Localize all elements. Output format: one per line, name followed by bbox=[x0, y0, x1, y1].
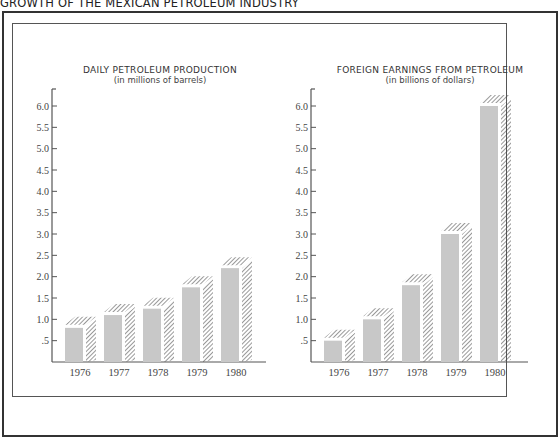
bar-1976 bbox=[324, 330, 355, 362]
y-tick-label: 5.0 bbox=[296, 143, 309, 154]
right-bar-chart: .51.01.52.02.53.03.54.04.55.05.56.019761… bbox=[0, 0, 560, 439]
y-tick-label: 4.5 bbox=[296, 165, 309, 176]
x-tick-label: 1979 bbox=[446, 367, 467, 378]
y-tick-label: .5 bbox=[301, 335, 309, 346]
y-tick-label: 2.0 bbox=[296, 271, 309, 282]
y-tick-label: 2.5 bbox=[296, 250, 309, 261]
x-tick-label: 1978 bbox=[407, 367, 428, 378]
y-tick-label: 5.5 bbox=[296, 122, 309, 133]
bar-1978 bbox=[402, 274, 433, 362]
y-tick-label: 4.0 bbox=[296, 186, 309, 197]
bar-1977 bbox=[363, 308, 394, 362]
y-tick-label: 3.0 bbox=[296, 229, 309, 240]
bar-1980 bbox=[480, 95, 511, 362]
x-tick-label: 1980 bbox=[485, 367, 506, 378]
y-tick-label: 6.0 bbox=[296, 101, 309, 112]
bar-1979 bbox=[441, 223, 472, 362]
y-tick-label: 3.5 bbox=[296, 207, 309, 218]
x-tick-label: 1977 bbox=[368, 367, 389, 378]
x-tick-label: 1976 bbox=[329, 367, 350, 378]
y-tick-label: 1.0 bbox=[296, 314, 309, 325]
y-tick-label: 1.5 bbox=[296, 293, 309, 304]
